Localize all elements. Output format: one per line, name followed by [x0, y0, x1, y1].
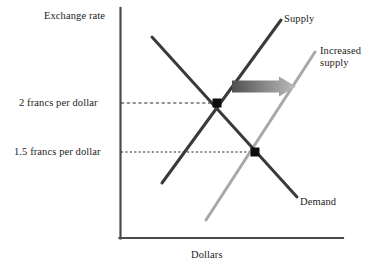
demand-curve-label: Demand: [300, 196, 336, 208]
increased-supply-label-line1: Increased: [320, 45, 361, 56]
tick-label-initial-price: 2 francs per dollar: [19, 97, 98, 109]
demand-curve: [152, 37, 297, 197]
supply-curve-label: Supply: [284, 13, 314, 25]
tick-label-new-price: 1.5 francs per dollar: [14, 146, 101, 158]
supply-demand-chart: Exchange rate Dollars Supply Increasedsu…: [0, 0, 382, 272]
increased-supply-curve-label: Increasedsupply: [320, 45, 378, 69]
increased-supply-curve: [206, 52, 315, 220]
initial-equilibrium-marker: [213, 99, 222, 108]
chart-canvas: [0, 0, 382, 272]
y-axis-label: Exchange rate: [44, 10, 105, 22]
new-equilibrium-marker: [251, 148, 260, 157]
increased-supply-label-line2: supply: [320, 57, 349, 68]
x-axis-label: Dollars: [191, 249, 223, 261]
